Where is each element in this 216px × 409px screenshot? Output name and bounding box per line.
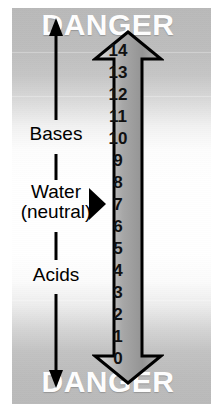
ph-value: 13	[96, 64, 140, 81]
ph-value: 9	[96, 152, 140, 169]
ph-value: 14	[96, 42, 140, 59]
ph-value: 4	[96, 262, 140, 279]
ph-scale-diagram: DANGER DANGER Bases Water (neutral) Acid…	[0, 0, 216, 409]
ph-value: 11	[96, 108, 140, 125]
ph-value: 5	[96, 240, 140, 257]
ph-value: 12	[96, 86, 140, 103]
ph-value: 6	[96, 218, 140, 235]
ph-value: 7	[96, 196, 140, 213]
ph-value: 10	[96, 130, 140, 147]
ph-value: 1	[96, 328, 140, 345]
ph-value-list: 14 13 12 11 10 9 8 7 6 5 4 3 2 1 0	[96, 30, 140, 385]
ph-value: 3	[96, 284, 140, 301]
ph-value: 2	[96, 306, 140, 323]
ph-value: 0	[96, 350, 140, 367]
ph-value: 8	[96, 174, 140, 191]
